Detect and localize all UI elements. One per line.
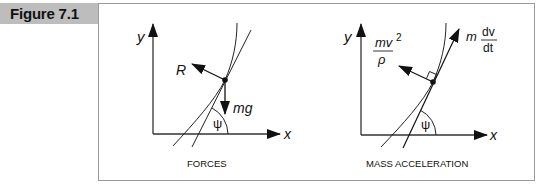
tangent-velocity-arrow [403,29,459,148]
mass-acceleration-diagram: y x ψ mv 2 ρ m dv dt MASS ACCELERATION [343,23,498,169]
mass-acceleration-caption: MASS ACCELERATION [366,158,468,169]
figure-diagrams: y x R mg ψ FORCES y x ψ mv 2 ρ m dv dt M… [0,0,549,185]
x-axis-label: x [283,126,292,142]
r-vector-arrow [192,64,225,80]
normal-accel-exponent: 2 [396,32,402,43]
y-axis-label: y [136,28,146,45]
normal-accel-numerator: mv [375,35,394,50]
psi-angle-label: ψ [421,117,430,132]
forces-diagram: y x R mg ψ FORCES [136,23,292,169]
forces-caption: FORCES [187,158,227,169]
tangent-accel-numerator: dv [482,25,495,39]
normal-accel-denominator: ρ [377,52,386,67]
tangent-accel-denominator: dt [483,41,494,55]
mg-vector-label: mg [233,100,253,116]
tangent-accel-coefficient: m [466,29,477,44]
x-axis-label: x [489,127,498,143]
y-axis-label: y [343,28,353,45]
r-vector-label: R [176,62,186,78]
psi-angle-label: ψ [213,116,222,131]
